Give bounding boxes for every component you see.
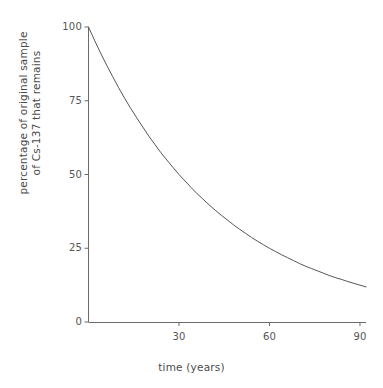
y-tick-label: 75 (40, 95, 82, 106)
x-axis-title: time (years) (0, 361, 383, 373)
x-tick-label: 90 (340, 331, 380, 342)
y-axis-title: percentage of original sample of Cs-137 … (17, 23, 43, 203)
x-tick-label: 60 (249, 331, 289, 342)
y-tick-label: 100 (40, 21, 82, 32)
y-axis-ticks (85, 27, 89, 322)
x-tick-label: 30 (159, 331, 199, 342)
chart-figure: 0255075100 306090 time (years) percentag… (0, 0, 383, 388)
y-axis-title-line-1: percentage of original sample (17, 23, 30, 203)
plot-area (0, 0, 383, 388)
decay-curve-line (89, 27, 367, 287)
y-axis-title-line-2: of Cs-137 that remains (30, 23, 43, 203)
y-tick-label: 25 (40, 242, 82, 253)
y-tick-label: 0 (40, 316, 82, 327)
y-tick-label: 50 (40, 169, 82, 180)
